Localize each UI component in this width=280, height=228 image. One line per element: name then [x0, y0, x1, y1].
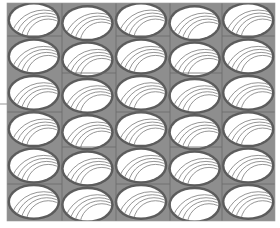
ellipse-tile-pattern	[0, 0, 280, 228]
